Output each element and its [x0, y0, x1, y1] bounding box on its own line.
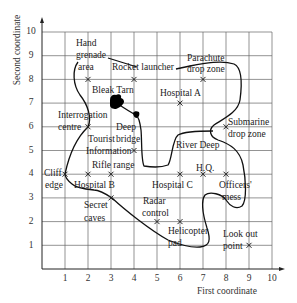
label-bridge: bridge [116, 134, 140, 144]
x-tick-4: 4 [127, 273, 141, 283]
label-look-out: Look out [223, 229, 258, 239]
label-hand: Hand [76, 38, 97, 48]
x-tick-5: 5 [150, 273, 164, 283]
y-tick-2: 2 [24, 216, 38, 226]
y-tick-1: 1 [24, 240, 38, 250]
label-area: area [78, 62, 94, 72]
label-deep: Deep [116, 122, 136, 132]
label-control: control [142, 208, 169, 218]
label-centre: centre [58, 122, 81, 132]
label-parachute: Parachute [187, 53, 224, 63]
label-cliff: Cliff [44, 168, 62, 178]
x-tick-7: 7 [196, 273, 210, 283]
label-hospital-c: Hospital C [152, 180, 193, 190]
x-tick-9: 9 [242, 273, 256, 283]
label-secret: Secret [84, 200, 108, 210]
y-tick-7: 7 [24, 97, 38, 107]
label-hospital-b: Hospital B [74, 180, 115, 190]
label-rocket-launcher: Rocket launcher [112, 62, 174, 72]
label-river-deep: River Deep [176, 140, 220, 150]
y-tick-10: 10 [24, 26, 38, 36]
label-information: Information [86, 146, 131, 156]
y-tick-5: 5 [24, 145, 38, 155]
y-tick-9: 9 [24, 50, 38, 60]
label-grenade: grenade [76, 50, 106, 60]
label-rifle-range: Rifle range [92, 160, 134, 170]
label-pad: pad [168, 238, 182, 248]
label-officers: Officers' [219, 180, 252, 190]
y-axis-arrow-icon [40, 17, 44, 23]
x-axis-arrow-icon [279, 267, 285, 271]
x-axis-label: First coordinate [197, 286, 257, 296]
y-tick-6: 6 [24, 121, 38, 131]
label-mess: mess [222, 192, 241, 202]
x-tick-1: 1 [58, 273, 72, 283]
label-submarine-drop-zone: drop zone [228, 129, 266, 139]
y-axis-label: Second coordinate [12, 0, 22, 100]
label-caves: caves [84, 213, 105, 223]
label-interrogation: Interrogation [58, 110, 108, 120]
label-parachute-drop-zone: drop zone [187, 64, 225, 74]
x-tick-6: 6 [173, 273, 187, 283]
label-submarine: Submarine [228, 117, 269, 127]
y-tick-4: 4 [24, 168, 38, 178]
x-tick-10: 10 [265, 273, 279, 283]
map-grid [0, 0, 297, 303]
coordinate-map-diagram: 1 2 3 4 5 6 7 8 9 10 1 2 3 4 5 6 7 8 9 1… [0, 0, 297, 303]
label-tourist: Tourist [88, 134, 115, 144]
y-tick-8: 8 [24, 74, 38, 84]
label-hq: H.Q. [196, 163, 214, 173]
label-radar: Radar [143, 196, 166, 206]
label-helicopter: Helicopter [168, 226, 208, 236]
label-hospital-a: Hospital A [160, 88, 201, 98]
x-tick-8: 8 [219, 273, 233, 283]
label-point: point [223, 241, 243, 251]
y-tick-3: 3 [24, 192, 38, 202]
x-tick-3: 3 [104, 273, 118, 283]
label-bleak-tarn: Bleak Tarn [92, 85, 134, 95]
label-edge: edge [45, 180, 63, 190]
x-tick-2: 2 [81, 273, 95, 283]
